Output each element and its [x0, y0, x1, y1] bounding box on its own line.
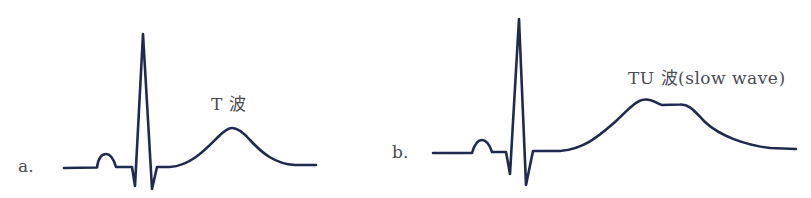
- panel-a-letter: a.: [18, 158, 34, 175]
- ecg-figure: a. T 波 b. TU 波(slow wave): [0, 0, 811, 198]
- ecg-waveforms: [0, 0, 811, 198]
- ecg-trace-a: [64, 34, 316, 189]
- ecg-trace-b: [433, 19, 796, 185]
- t-wave-label: T 波: [211, 96, 246, 113]
- panel-b-letter: b.: [392, 144, 408, 161]
- tu-wave-label: TU 波(slow wave): [628, 70, 786, 87]
